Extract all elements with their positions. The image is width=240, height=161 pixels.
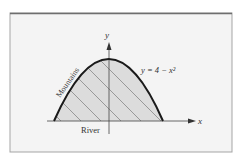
- y-axis-label: y: [104, 30, 109, 40]
- parabola-region-diagram: x y y = 4 − x² Mountains River: [0, 0, 240, 161]
- river-label: River: [81, 125, 100, 135]
- x-axis-label: x: [197, 116, 202, 126]
- equation-label: y = 4 − x²: [140, 65, 176, 75]
